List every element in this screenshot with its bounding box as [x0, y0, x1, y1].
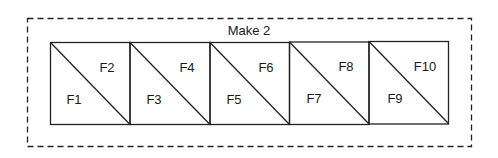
section-label: F9	[387, 91, 402, 106]
unit-1: F1 F2	[51, 43, 131, 125]
diagonal-line	[369, 42, 449, 124]
unit-4: F7 F8	[290, 42, 370, 125]
unit-2: F3 F4	[130, 43, 210, 125]
section-label: F3	[146, 92, 161, 107]
section-label: F4	[179, 60, 194, 75]
section-label: F6	[258, 60, 273, 75]
diagonal-line	[51, 43, 131, 125]
section-label: F1	[66, 92, 81, 107]
paper-piecing-diagram: Make 2 F1 F2 F3 F4 F5 F6 F7 F8 F9 F10	[0, 0, 498, 158]
section-label: F8	[338, 59, 353, 74]
section-label: F2	[99, 60, 114, 75]
section-label: F5	[226, 92, 241, 107]
section-label: F7	[306, 91, 321, 106]
diagonal-line	[290, 42, 370, 124]
unit-3: F5 F6	[210, 43, 290, 125]
section-label: F10	[414, 59, 436, 74]
diagonal-line	[130, 43, 210, 125]
group-label: Make 2	[228, 23, 271, 38]
unit-5: F9 F10	[369, 42, 449, 125]
diagonal-line	[210, 43, 290, 125]
